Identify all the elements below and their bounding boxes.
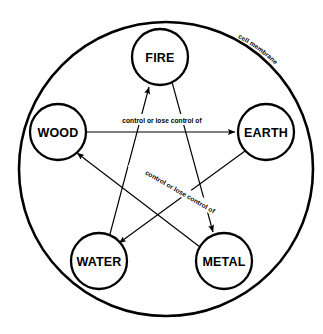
wuxing-diagram: cell membrane control or lose control of…	[0, 0, 323, 334]
node-water[interactable]: WATER	[71, 233, 127, 289]
node-water-label: WATER	[76, 255, 121, 269]
edge-label-wood-earth: control or lose control of	[122, 117, 202, 124]
node-metal-label: METAL	[202, 255, 245, 269]
node-earth[interactable]: EARTH	[238, 104, 294, 160]
node-metal[interactable]: METAL	[196, 233, 252, 289]
diagram-canvas: cell membrane control or lose control of…	[0, 0, 323, 334]
node-wood[interactable]: WOOD	[30, 104, 86, 160]
edge-label-wood-earth-group: control or lose control of	[104, 114, 221, 125]
node-wood-label: WOOD	[37, 126, 78, 140]
node-fire-label: FIRE	[145, 51, 174, 65]
node-earth-label: EARTH	[244, 126, 288, 140]
node-fire[interactable]: FIRE	[132, 29, 188, 85]
